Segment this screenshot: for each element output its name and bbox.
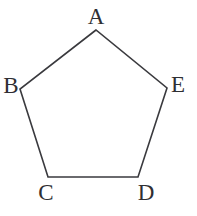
pentagon-figure: A B C D E <box>0 0 197 216</box>
vertex-label-d: D <box>135 181 157 204</box>
vertex-label-e: E <box>167 73 189 96</box>
vertex-label-c: C <box>35 181 57 204</box>
vertex-label-b: B <box>0 74 22 97</box>
pentagon-drawing-canvas <box>0 0 197 216</box>
vertex-label-a: A <box>85 5 107 28</box>
pentagon-outline <box>20 30 167 177</box>
